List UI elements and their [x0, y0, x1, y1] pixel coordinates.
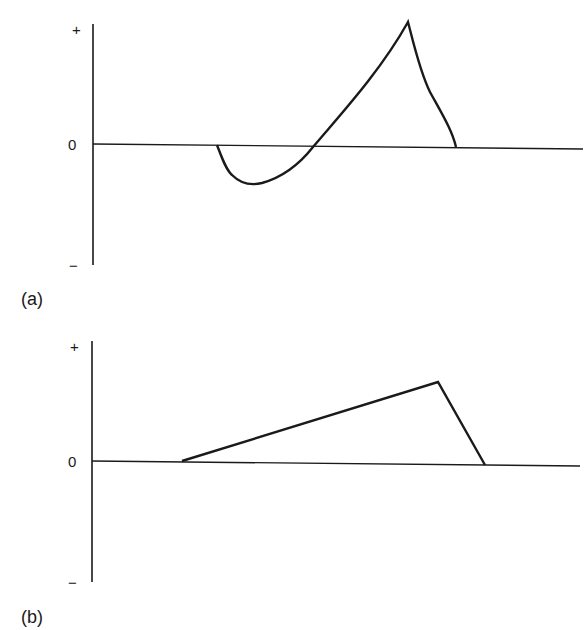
panel-b-zero-tick: 0	[68, 454, 76, 470]
panel-b-waveform	[182, 382, 485, 465]
diagram-canvas	[0, 0, 588, 630]
waveform-figure: + 0 − (a) + 0 − (b)	[0, 0, 588, 630]
panel-b-plus-tick: +	[70, 339, 79, 355]
panel-a-minus-tick: −	[69, 258, 78, 274]
panel-b-minus-tick: −	[68, 575, 77, 591]
panel-a-zero-tick: 0	[68, 137, 76, 153]
panel-a-waveform	[217, 22, 456, 184]
panel-b-graphics	[92, 341, 580, 582]
panel-a-label: (a)	[21, 291, 43, 307]
panel-a-graphics	[93, 22, 583, 265]
panel-a-plus-tick: +	[72, 22, 81, 38]
panel-b-zero-line	[92, 461, 580, 466]
panel-b-label: (b)	[21, 609, 43, 625]
panel-a-zero-line	[93, 144, 583, 149]
